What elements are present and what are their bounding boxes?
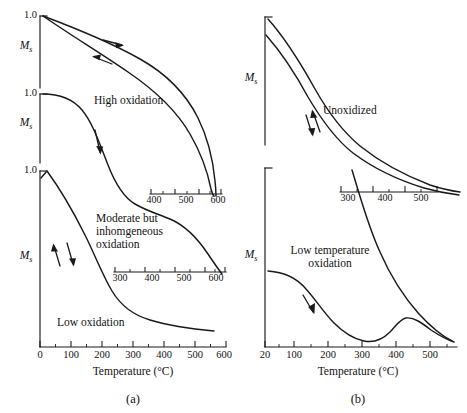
panel-a: 1.0 Ms High oxidation (19, 9, 232, 406)
label-low-temp-oxidation-line2: oxidation (308, 257, 352, 269)
inset-tick-a-mid-400: 400 (145, 272, 160, 283)
inset-tick-a-top-400: 400 (147, 194, 162, 205)
subpanel-b-unoxidized: Ms Unoxidized (244, 17, 460, 203)
label-low-oxidation: Low oxidation (57, 316, 125, 328)
panel-b: Ms Unoxidized (244, 17, 460, 406)
inset-tick-a-top-600: 600 (211, 194, 226, 205)
curve-b-lowtemp-heating (268, 271, 454, 342)
y-tick-label-a-top: 1.0 (24, 9, 37, 20)
inset-tick-b-top-300: 300 (341, 192, 356, 203)
x-tick-a-100: 100 (63, 349, 79, 360)
x-tick-a-600: 600 (216, 349, 232, 360)
y-tick-label-a-bot: 1.0 (24, 164, 37, 175)
y-axis-label-a-mid: Ms (19, 116, 33, 131)
x-tick-b-20: 20 (260, 349, 271, 360)
inset-tick-a-mid-300: 300 (113, 272, 128, 283)
x-tick-b-500: 500 (422, 349, 438, 360)
inset-tick-a-top-500: 500 (179, 194, 194, 205)
x-tick-a-200: 200 (94, 349, 110, 360)
x-tick-a-0: 0 (37, 349, 42, 360)
arrow-a-low-reverse (51, 244, 60, 267)
curve-a-high-heating (43, 16, 216, 196)
x-tick-a-500: 500 (187, 349, 203, 360)
thermomagnetic-curves-figure: 1.0 Ms High oxidation (0, 0, 467, 413)
label-moderate-oxidation-line2: inhomgeneous (96, 225, 164, 238)
arrow-b-unox-down (306, 115, 315, 137)
x-tick-b-400: 400 (388, 349, 404, 360)
label-moderate-oxidation-line1: Moderate but (96, 212, 158, 224)
arrow-a-low-forward (67, 243, 76, 267)
inset-axis-a-mid: 300 400 500 600 (113, 267, 227, 283)
y-tick-label-a-mid: 1.0 (24, 87, 37, 98)
panel-caption-b: (b) (351, 392, 366, 406)
label-moderate-oxidation-line3: oxidation (96, 238, 140, 250)
x-tick-b-200: 200 (320, 349, 336, 360)
figure-root: 1.0 Ms High oxidation (0, 0, 467, 413)
y-axis-label-b-bot: Ms (244, 248, 258, 263)
inset-tick-b-top-400: 400 (378, 192, 393, 203)
x-axis-panel-a: 0 100 200 300 400 500 600 Temperature (°… (37, 341, 232, 378)
label-low-temp-oxidation-line1: Low temperature (291, 244, 370, 257)
inset-axis-a-top: 400 500 600 (147, 189, 226, 205)
y-axis-label-b-top: Ms (244, 71, 258, 86)
x-tick-b-300: 300 (354, 349, 370, 360)
x-axis-title-a: Temperature (°C) (93, 365, 174, 378)
inset-axis-b-top: 300 400 500 (340, 186, 438, 203)
subpanel-a-moderate-oxidation: 1.0 Ms Moderate but inhomgeneous oxidati… (19, 87, 226, 283)
inset-tick-b-top-500: 500 (414, 192, 429, 203)
panel-caption-a: (a) (126, 392, 140, 406)
x-tick-b-100: 100 (286, 349, 302, 360)
x-axis-panel-b: 20 100 200 300 400 500 Temperature (°C) (260, 341, 457, 378)
curve-a-high-cooling (43, 16, 214, 196)
subpanel-a-low-oxidation: 1.0 Ms Low oxidation (19, 164, 214, 347)
arrow-a-high-forward (103, 40, 124, 48)
x-tick-a-300: 300 (125, 349, 141, 360)
x-axis-title-b: Temperature (°C) (318, 365, 399, 378)
label-unoxidized: Unoxidized (323, 104, 377, 116)
inset-tick-a-mid-600: 600 (209, 272, 224, 283)
y-axis-label-a-top: Ms (19, 39, 33, 54)
y-axis-label-a-bot: Ms (19, 249, 33, 264)
x-tick-a-400: 400 (156, 349, 172, 360)
label-high-oxidation: High oxidation (94, 94, 164, 107)
inset-tick-a-mid-500: 500 (177, 272, 192, 283)
